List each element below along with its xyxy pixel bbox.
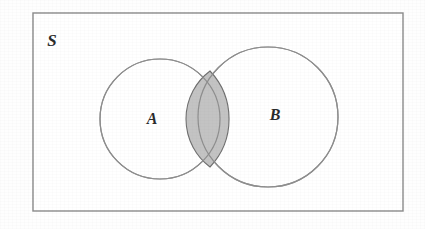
universal-set-label: S (47, 31, 56, 50)
venn-diagram-figure: S A B (0, 0, 425, 229)
venn-diagram-canvas: S A B (0, 0, 425, 229)
set-b-label: B (269, 106, 281, 123)
set-a-label: A (146, 110, 158, 127)
